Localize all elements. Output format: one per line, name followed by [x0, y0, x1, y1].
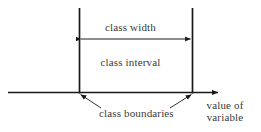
value-of-variable-line-2: variable	[193, 112, 257, 124]
class-interval-label: class interval	[0, 56, 261, 68]
class-interval-diagram: class width class interval class boundar…	[0, 0, 261, 132]
value-of-variable-line-1: value of	[193, 100, 257, 112]
class-width-label: class width	[0, 21, 261, 33]
class-boundaries-right-leader-arrow	[170, 95, 191, 109]
class-boundaries-label: class boundaries	[99, 107, 174, 119]
value-of-variable-label: value of variable	[193, 100, 257, 123]
class-boundaries-left-leader-arrow	[81, 95, 101, 109]
